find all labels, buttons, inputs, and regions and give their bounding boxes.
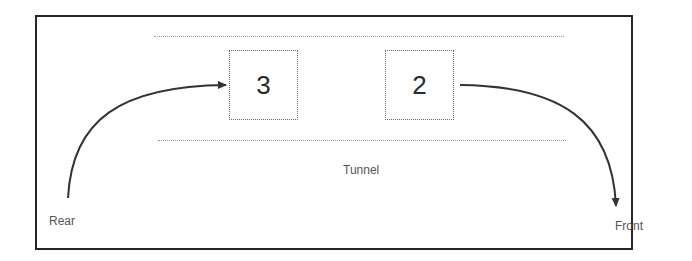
enqueue-arrow-icon	[68, 85, 226, 198]
rear-label: Rear	[49, 214, 75, 228]
arrows-layer	[0, 0, 692, 261]
dequeue-arrow-icon	[460, 85, 616, 206]
tunnel-label: Tunnel	[343, 163, 379, 177]
front-label: Front	[615, 219, 643, 233]
